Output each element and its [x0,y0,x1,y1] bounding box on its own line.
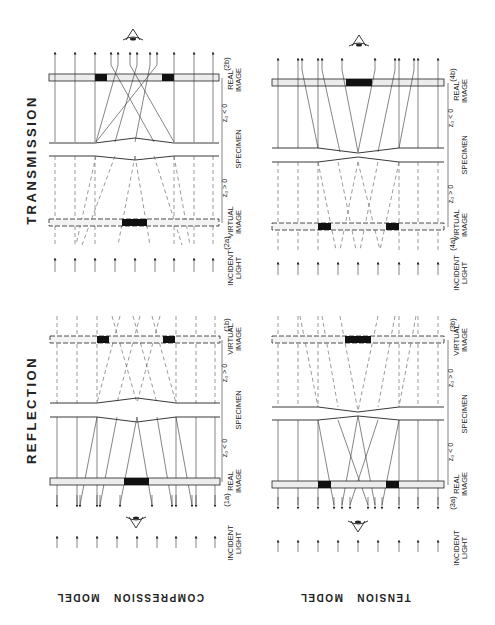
reflected-ray-arrows [278,497,438,508]
label-specimen: SPECIMEN [234,390,243,429]
virtual-rays [278,316,438,411]
outgoing-ray-arrows [278,59,438,70]
virtual-rays [278,162,438,250]
virtual-rays [55,156,213,245]
tag-1a: (1a) [222,493,231,507]
label-incident-light-l2: LIGHT [234,257,243,280]
label-virtual-image-l2: IMAGE [234,210,243,234]
specimen [50,398,220,422]
label-z-positive: z₀ > 0 [221,179,228,197]
label-specimen: SPECIMEN [460,394,469,433]
specimen [272,407,444,420]
incident-light-arrows [278,263,438,275]
tag-4a: (4a) [448,237,457,251]
label-specimen: SPECIMEN [460,135,469,174]
specimen [272,148,444,162]
panel-reflection-tension: (3b) VIRTUAL IMAGE z₀ > 0 SPECIMEN z₀ < … [272,316,469,566]
label-virtual-image-l2: IMAGE [460,328,469,352]
virtual-rays [57,316,215,403]
outgoing-ray-arrows [55,53,213,65]
panel-transmission-compression: (2b) REAL IMAGE z₀ < 0 SPECIMEN z₀ > 0 V… [49,29,243,286]
incident-light-arrows [57,537,215,548]
label-real-image-l2: IMAGE [460,472,469,496]
incident-light-arrows [278,541,438,552]
label-z-negative: z₀ < 0 [447,443,454,461]
reflected-rays [57,417,215,505]
column-title-reflection: REFLECTION [24,356,39,464]
label-real-image-l2: IMAGE [234,469,243,493]
label-z-positive: z₀ > 0 [447,185,454,203]
eye-icon [126,517,146,529]
virtual-image-plane [50,336,220,343]
label-real-image-l2: IMAGE [460,79,469,103]
label-virtual-image-l2: IMAGE [460,213,469,237]
virtual-image-plane [49,219,219,226]
panel-reflection-compression: (1b) VIRTUAL IMAGE z₀ > 0 SPECIMEN z₀ < … [50,316,243,561]
label-incident-light-l2: LIGHT [460,262,469,285]
real-image-plane [272,481,444,488]
label-z-negative: z₀ < 0 [221,439,228,457]
virtual-image-plane [272,336,444,343]
column-title-transmission: TRANSMISSION [24,95,39,225]
label-z-negative: z₀ < 0 [221,104,228,122]
tag-2a: (2a) [222,236,231,250]
eye-icon [349,35,369,47]
label-incident-light-l2: LIGHT [460,537,469,560]
specimen [49,138,219,160]
label-z-positive: z₀ > 0 [221,364,228,382]
label-z-positive: z₀ > 0 [447,369,454,387]
label-incident-light-l2: LIGHT [234,532,243,555]
row-label-tension-model: TENSION MODEL [299,592,410,603]
tag-3a: (3a) [448,496,457,510]
virtual-image-plane [272,223,444,230]
caustics-ray-diagram-figure: TRANSMISSION REFLECTION COMPRESSION MODE… [0,0,495,625]
tag-4b: (4b) [448,68,457,82]
label-real-image-l2: IMAGE [234,68,243,92]
label-z-negative: z₀ < 0 [447,109,454,127]
incident-light-arrows [55,259,213,272]
eye-icon [123,29,143,41]
label-virtual-image-l2: IMAGE [234,327,243,351]
eye-icon [348,521,368,533]
real-image-plane [50,478,220,485]
label-specimen: SPECIMEN [234,129,243,168]
tag-2b: (2b) [222,57,231,71]
row-label-compression-model: COMPRESSION MODEL [56,592,204,603]
panel-transmission-tension: (4b) REAL IMAGE z₀ < 0 SPECIMEN z₀ > 0 V… [272,35,469,291]
reflected-rays [278,416,438,505]
